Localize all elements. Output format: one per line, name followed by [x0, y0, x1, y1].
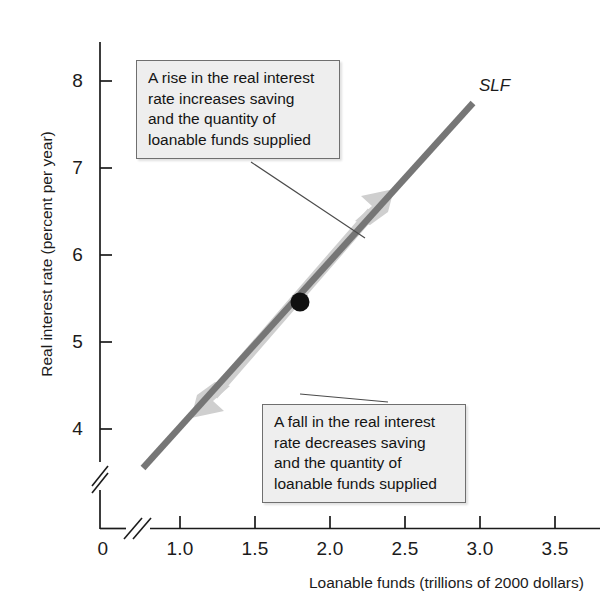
x-tick-label-3-0: 3.0	[466, 538, 493, 560]
x-tick-label-2-5: 2.5	[391, 538, 418, 560]
slf-curve-label: SLF	[479, 76, 510, 96]
x-tick-label-2-0: 2.0	[316, 538, 343, 560]
callout-fall-line-2: rate decreases saving	[274, 433, 455, 454]
x-tick-label-0: 0	[98, 538, 109, 560]
loanable-funds-supply-figure: SLF 8 7 6 5 4 0 1.0 1.5 2.0 2.5 3.0 3.5 …	[0, 0, 610, 609]
callout-fall-line-3: and the quantity of	[274, 453, 455, 474]
callout-rise-line-1: A rise in the real interest	[148, 68, 329, 89]
y-tick-label-4: 4	[38, 418, 83, 440]
callout-fall-line-1: A fall in the real interest	[274, 412, 455, 433]
callout-rise-box: A rise in the real interest rate increas…	[136, 60, 340, 159]
x-axis-break-mark-1	[124, 518, 142, 539]
callout-rise-line-3: and the quantity of	[148, 109, 329, 130]
x-axis-title: Loanable funds (trillions of 2000 dollar…	[309, 574, 584, 592]
x-axis-ticks	[180, 516, 555, 529]
x-tick-label-1-0: 1.0	[166, 538, 193, 560]
callout-fall-box: A fall in the real interest rate decreas…	[262, 404, 466, 503]
callout-rise-leader-line	[251, 162, 365, 238]
x-axis-break-mark-2	[133, 518, 151, 539]
callout-fall-leader-line-segment	[225, 376, 300, 394]
y-axis-ticks	[100, 81, 112, 429]
equilibrium-point-marker	[291, 293, 310, 312]
callout-rise-line-2: rate increases saving	[148, 89, 329, 110]
callout-rise-line-4: loanable funds supplied	[148, 130, 329, 151]
y-axis-title: Real interest rate (percent per year)	[38, 89, 56, 419]
callout-fall-line-4: loanable funds supplied	[274, 474, 455, 495]
x-tick-label-1-5: 1.5	[241, 538, 268, 560]
callout-fall-leader-line	[300, 394, 388, 402]
x-tick-label-3-5: 3.5	[541, 538, 568, 560]
